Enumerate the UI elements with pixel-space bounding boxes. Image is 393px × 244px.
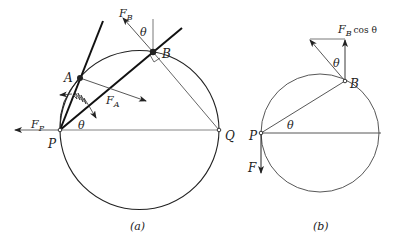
label-p: P [47,137,57,151]
label-fb: FB [118,7,133,22]
figure-b: B P F θ θ FBcos θ (b) [247,23,381,233]
label-theta-p-b: θ [287,119,294,132]
label-b: B [161,47,171,61]
label-f-b: F [247,161,257,175]
spring [73,92,89,106]
label-fbcos: FBcos θ [337,23,377,38]
label-theta-b-b: θ [333,57,340,70]
label-fa: FA [105,94,120,109]
spring-arrow-right [89,106,96,118]
point-p [58,128,62,132]
point-q [217,128,221,132]
point-b [150,49,156,55]
caption-a: (a) [130,220,145,233]
point-p-b [259,131,263,135]
label-a: A [63,71,73,85]
physics-diagram: A B P Q θ θ FB FA FP (a) B P F θ θ FBcos… [0,0,393,244]
spring-arrow-left [60,94,72,95]
label-theta-b: θ [140,26,147,39]
point-b-b [343,79,347,83]
label-q: Q [225,129,235,143]
chord-pb-b [261,81,345,133]
label-b-b: B [349,77,359,91]
figure-a: A B P Q θ θ FB FA FP (a) [15,7,235,233]
force-fb-arrow [123,18,153,52]
label-p-b: P [248,129,258,143]
label-theta-p: θ [78,119,85,132]
caption-b: (b) [313,220,329,233]
point-a [77,75,83,81]
label-fp: FP [30,118,45,133]
